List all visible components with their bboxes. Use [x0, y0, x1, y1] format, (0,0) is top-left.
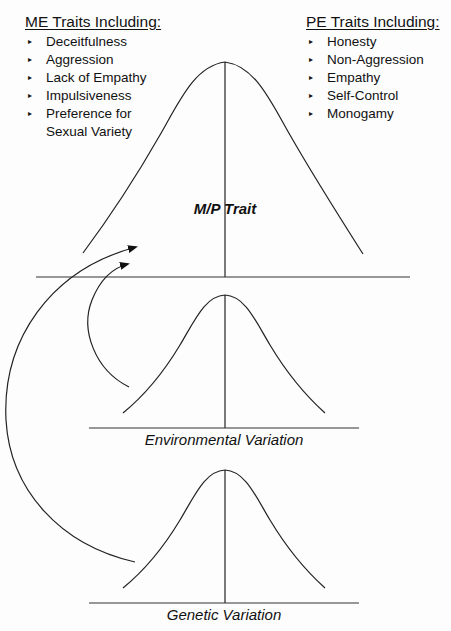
bullet-icon: ▸	[309, 105, 313, 123]
pe-trait-label: Non-Aggression	[327, 52, 424, 67]
me-traits-block: ME Traits Including: ▸ Deceitfulness ▸ A…	[25, 13, 161, 141]
list-item: ▸ Empathy	[306, 69, 440, 87]
bullet-icon: ▸	[309, 87, 313, 105]
genetic-arrow	[6, 247, 136, 562]
list-item: ▸ Non-Aggression	[306, 51, 440, 69]
list-item: ▸ Preference for Sexual Variety	[25, 105, 161, 141]
list-item: ▸ Monogamy	[306, 105, 440, 123]
pe-trait-label: Monogamy	[327, 106, 394, 121]
pe-traits-list: ▸ Honesty ▸ Non-Aggression ▸ Empathy ▸ S…	[306, 33, 440, 123]
environmental-arrow	[88, 264, 129, 387]
pe-traits-block: PE Traits Including: ▸ Honesty ▸ Non-Agg…	[306, 13, 440, 123]
bullet-icon: ▸	[28, 51, 32, 69]
me-trait-label-line-1: Preference for	[46, 106, 132, 121]
mp-trait-label: M/P Trait	[194, 200, 257, 217]
list-item: ▸ Impulsiveness	[25, 87, 161, 105]
environmental-variation-label: Environmental Variation	[145, 431, 304, 448]
me-trait-label: Aggression	[46, 52, 114, 67]
me-traits-heading: ME Traits Including:	[25, 13, 161, 31]
pe-trait-label: Honesty	[327, 34, 377, 49]
genetic-distribution	[89, 470, 359, 603]
pe-trait-label: Empathy	[327, 70, 380, 85]
list-item: ▸ Deceitfulness	[25, 33, 161, 51]
genetic-bell-curve	[123, 470, 325, 588]
list-item: ▸ Honesty	[306, 33, 440, 51]
bullet-icon: ▸	[309, 69, 313, 87]
bullet-icon: ▸	[28, 87, 32, 105]
bullet-icon: ▸	[309, 51, 313, 69]
environmental-distribution	[89, 295, 359, 428]
me-trait-label: Lack of Empathy	[46, 70, 147, 85]
me-trait-label: Deceitfulness	[46, 34, 127, 49]
me-trait-label-line-2: Sexual Variety	[46, 124, 132, 139]
list-item: ▸ Self-Control	[306, 87, 440, 105]
bullet-icon: ▸	[28, 33, 32, 51]
me-trait-label: Impulsiveness	[46, 88, 132, 103]
bullet-icon: ▸	[28, 105, 32, 123]
pe-traits-heading: PE Traits Including:	[306, 13, 440, 31]
list-item: ▸ Aggression	[25, 51, 161, 69]
environmental-bell-curve	[123, 295, 325, 413]
list-item: ▸ Lack of Empathy	[25, 69, 161, 87]
bullet-icon: ▸	[309, 33, 313, 51]
me-traits-list: ▸ Deceitfulness ▸ Aggression ▸ Lack of E…	[25, 33, 161, 141]
pe-trait-label: Self-Control	[327, 88, 398, 103]
bullet-icon: ▸	[28, 69, 32, 87]
genetic-variation-label: Genetic Variation	[167, 606, 282, 623]
